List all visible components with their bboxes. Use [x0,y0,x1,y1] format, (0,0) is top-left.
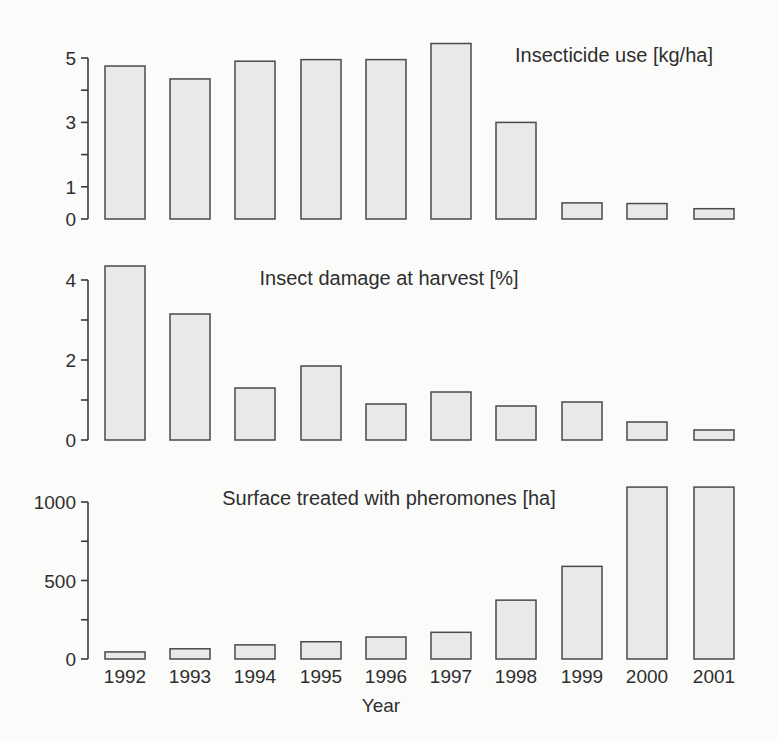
bar-1998 [496,600,536,659]
bar-1997 [431,632,471,659]
bar-1999 [562,203,602,219]
x-tick-label-1996: 1996 [365,666,407,687]
bar-1992 [105,266,145,440]
y-tick-label: 500 [44,571,76,592]
y-tick-label: 0 [65,430,76,451]
x-tick-label-1994: 1994 [234,666,277,687]
bar-1996 [366,637,406,659]
bar-1993 [170,314,210,440]
x-tick-label-1997: 1997 [430,666,472,687]
panel-title: Insecticide use [kg/ha] [515,44,713,66]
panel-title: Insect damage at harvest [%] [259,267,518,289]
bar-2000 [627,487,667,659]
y-tick-label: 1 [65,177,76,198]
x-axis-title: Year [362,695,401,716]
bar-1996 [366,404,406,440]
x-tick-label-2001: 2001 [693,666,735,687]
panel-title: Surface treated with pheromones [ha] [222,487,556,509]
chart-canvas: 0135Insecticide use [kg/ha] 024Insect da… [0,0,777,741]
y-tick-label: 3 [65,112,76,133]
bar-1997 [431,44,471,219]
bar-1998 [496,406,536,440]
panel-insect-damage: 024Insect damage at harvest [%] [65,266,734,451]
y-tick-label: 5 [65,48,76,69]
bar-1992 [105,652,145,659]
bar-2001 [694,430,734,440]
y-tick-label: 4 [65,270,76,291]
bar-2001 [694,209,734,219]
x-tick-label-1999: 1999 [561,666,603,687]
bar-1994 [235,61,275,219]
bar-1995 [301,366,341,440]
bar-1997 [431,392,471,440]
bar-1999 [562,402,602,440]
x-tick-label-1992: 1992 [104,666,146,687]
panel-pheromone-surface: 05001000Surface treated with pheromones … [34,487,734,670]
x-tick-label-1998: 1998 [495,666,537,687]
bar-1996 [366,60,406,219]
bar-1998 [496,122,536,219]
bar-1994 [235,645,275,659]
bar-1993 [170,79,210,219]
bar-1992 [105,66,145,219]
bar-1993 [170,649,210,659]
bar-2001 [694,487,734,659]
y-tick-label: 0 [65,209,76,230]
bar-2000 [627,204,667,219]
panel-insecticide-use: 0135Insecticide use [kg/ha] [65,44,734,230]
bar-1999 [562,566,602,659]
x-tick-label-2000: 2000 [626,666,668,687]
bar-chart-figure: 0135Insecticide use [kg/ha] 024Insect da… [0,0,777,741]
y-tick-label: 0 [65,649,76,670]
y-tick-label: 2 [65,350,76,371]
bar-1995 [301,642,341,659]
bar-2000 [627,422,667,440]
x-axis-year-labels: 1992199319941995199619971998199920002001 [104,666,735,687]
x-tick-label-1995: 1995 [300,666,342,687]
bar-1995 [301,60,341,219]
y-tick-label: 1000 [34,492,76,513]
x-tick-label-1993: 1993 [169,666,211,687]
bar-1994 [235,388,275,440]
